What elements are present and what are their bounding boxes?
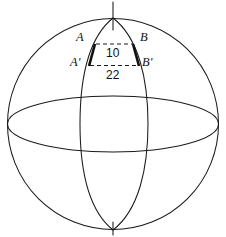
sphere-diagram-svg (0, 0, 226, 237)
label-point-b-prime: B' (142, 56, 152, 69)
geometry-figure: A B A' B' 10 22 (0, 0, 226, 237)
measurement-top-segment: 10 (106, 47, 119, 59)
label-point-b: B (140, 31, 148, 44)
measurement-bottom-segment: 22 (106, 69, 119, 81)
label-point-a: A (76, 31, 84, 44)
equator-ellipse (8, 96, 219, 152)
label-point-a-prime: A' (70, 56, 80, 69)
